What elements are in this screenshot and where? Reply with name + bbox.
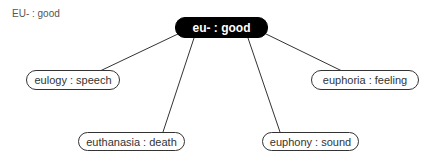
root-node[interactable]: eu- : good	[175, 17, 268, 38]
child-node-eulogy[interactable]: eulogy : speech	[26, 70, 120, 90]
child-node-euphoria[interactable]: euphoria : feeling	[311, 70, 419, 90]
child-node-euthanasia[interactable]: euthanasia : death	[78, 132, 185, 151]
child-node-euphony[interactable]: euphony : sound	[262, 132, 359, 151]
